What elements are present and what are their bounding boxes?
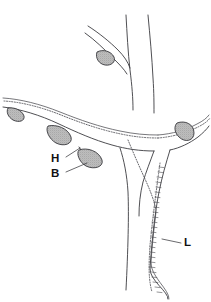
label-l: L [184, 236, 191, 248]
figure-canvas: H B L [0, 0, 211, 302]
diagram-background [0, 0, 211, 302]
label-h: H [51, 152, 59, 164]
label-b: B [51, 167, 59, 179]
vessel-branching-diagram: H B L [0, 0, 211, 302]
